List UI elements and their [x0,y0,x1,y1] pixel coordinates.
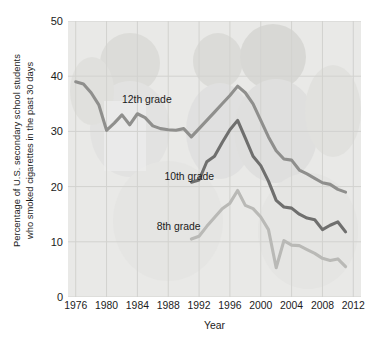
x-tick-label: 2008 [311,300,334,311]
y-axis-tick-labels: 01020304050 [40,0,63,343]
x-tick-label: 2000 [249,300,272,311]
x-axis-title: Year [68,320,361,331]
y-tick-label: 50 [40,15,63,27]
x-tick-label: 1992 [188,300,211,311]
x-tick-label: 1996 [218,300,241,311]
x-tick-label: 1976 [64,300,87,311]
y-axis-title-line1: Percentage of U.S. secondary school stud… [11,54,24,247]
x-tick-label: 2012 [342,300,365,311]
plot-svg [68,21,361,297]
x-tick-label: 1984 [126,300,149,311]
x-tick-label: 1980 [95,300,118,311]
x-tick-label: 1988 [157,300,180,311]
x-axis-tick-labels: 1976198019841988199219962000200420082012 [68,300,361,316]
series-label-8th-grade: 8th grade [157,221,201,232]
series-label-10th-grade: 10th grade [164,171,214,182]
x-tick-label: 2004 [280,300,303,311]
series-label-12th-grade: 12th grade [122,94,172,105]
y-axis-title-line2: who smoked cigarettes in the past 30 day… [23,54,36,247]
y-tick-label: 10 [40,236,63,248]
y-tick-label: 40 [40,70,63,82]
y-tick-label: 30 [40,125,63,137]
line-chart: Percentage of U.S. secondary school stud… [0,0,389,343]
y-tick-label: 0 [40,291,63,303]
y-tick-label: 20 [40,181,63,193]
plot-area: 12th grade 10th grade 8th grade [68,21,361,297]
